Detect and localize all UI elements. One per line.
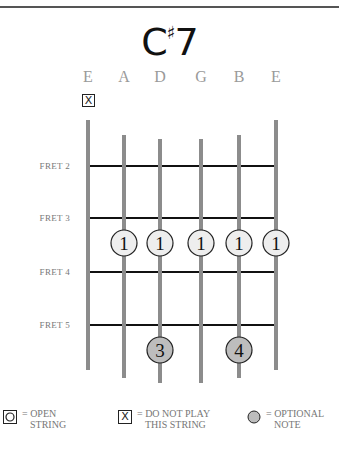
legend-optional: = OPTIONAL NOTE	[266, 408, 324, 430]
legend-open: = OPEN STRING	[22, 408, 66, 430]
optional-note-icon	[247, 410, 261, 424]
legend-open-line2: STRING	[22, 419, 66, 430]
fret-label-2: FRET 2	[0, 161, 70, 171]
svg-text:1: 1	[271, 233, 281, 254]
legend-optional-line1: = OPTIONAL	[266, 408, 324, 419]
finger-dot: 1	[226, 230, 252, 256]
finger-dot: 1	[111, 230, 137, 256]
finger-dot: 1	[147, 230, 173, 256]
optional-finger-dot: 4	[226, 337, 252, 363]
optional-finger-dot: 3	[147, 337, 173, 363]
fretboard: 1111134	[0, 0, 339, 451]
fret-label-4: FRET 4	[0, 267, 70, 277]
finger-dot: 1	[188, 230, 214, 256]
legend-mute-line2: THIS STRING	[137, 419, 210, 430]
legend-mute: = DO NOT PLAY THIS STRING	[137, 408, 210, 430]
svg-text:3: 3	[155, 340, 165, 361]
finger-dot: 1	[263, 230, 289, 256]
legend-mute-line1: = DO NOT PLAY	[137, 408, 210, 419]
fret-label-5: FRET 5	[0, 320, 70, 330]
fret-label-3: FRET 3	[0, 213, 70, 223]
svg-text:1: 1	[119, 233, 129, 254]
legend-open-line1: = OPEN	[22, 408, 66, 419]
svg-text:4: 4	[234, 340, 244, 361]
open-string-icon	[3, 410, 17, 424]
svg-text:1: 1	[196, 233, 206, 254]
legend-optional-line2: NOTE	[266, 419, 324, 430]
do-not-play-legend-icon: X	[118, 410, 132, 424]
svg-text:1: 1	[155, 233, 165, 254]
svg-text:1: 1	[234, 233, 244, 254]
